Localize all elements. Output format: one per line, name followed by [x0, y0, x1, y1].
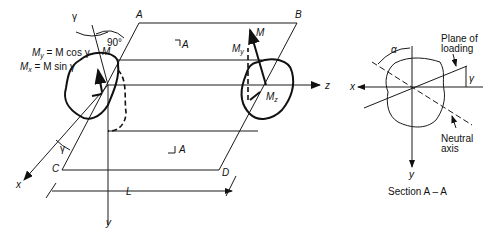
- plane-leader: [453, 54, 456, 66]
- length-tick-right: [226, 176, 236, 196]
- section-aa: [358, 46, 483, 167]
- section-title: Section A – A: [388, 186, 447, 197]
- label-M-left: M: [102, 46, 111, 57]
- label-M-right: M: [256, 27, 265, 38]
- plane-label-2: loading: [441, 43, 473, 54]
- section-label-x: x: [349, 81, 356, 92]
- label-x: x: [15, 179, 22, 190]
- equation-mx: Mx = M sin γ: [20, 61, 75, 73]
- neutral-label-2: axis: [441, 143, 459, 154]
- label-gamma-section: γ: [469, 73, 475, 84]
- section-outline: [386, 58, 444, 127]
- label-Mz-right: Mz: [266, 91, 278, 103]
- m-arrow-left: [98, 70, 102, 92]
- section-marker-top: [175, 40, 180, 46]
- beam-bending-diagram: A B C D x y z L A A γ γ 90° M My = M cos…: [0, 0, 503, 236]
- label-L: L: [126, 186, 132, 197]
- label-D: D: [222, 167, 229, 178]
- neutral-leader: [452, 116, 456, 128]
- label-A: A: [135, 9, 143, 20]
- label-gamma-top: γ: [72, 11, 77, 22]
- section-marker-label-bottom: A: [178, 144, 186, 155]
- section-marker-label-top: A: [181, 39, 189, 50]
- label-z: z: [324, 80, 330, 91]
- neutral-axis-line: [372, 62, 472, 125]
- section-label-y: y: [408, 169, 415, 180]
- gamma-arc-top: [76, 32, 108, 36]
- section-marker-bottom: [168, 146, 175, 153]
- label-y: y: [105, 217, 112, 228]
- label-B: B: [295, 9, 302, 20]
- m-arrow-right: [250, 30, 266, 85]
- label-alpha: α: [391, 44, 397, 55]
- label-gamma-bottom: γ: [60, 143, 65, 154]
- label-C: C: [52, 163, 60, 174]
- label-My-right: My: [232, 43, 244, 56]
- right-cross-section: [242, 59, 294, 119]
